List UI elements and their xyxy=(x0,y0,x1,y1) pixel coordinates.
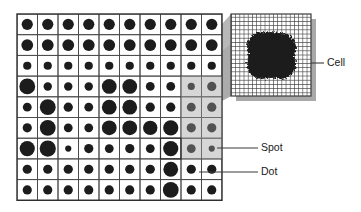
halftone-dot xyxy=(124,19,135,30)
halftone-dot xyxy=(185,39,197,51)
halftone-dot xyxy=(23,165,32,174)
halftone-dot xyxy=(43,165,52,174)
halftone-dot xyxy=(143,121,157,135)
halftone-dot xyxy=(21,39,33,51)
halftone-dot xyxy=(23,123,32,132)
halftone-dot xyxy=(105,185,114,194)
halftone-dot xyxy=(187,185,196,194)
diagram-canvas: CellSpotDot xyxy=(0,0,361,212)
halftone-dot xyxy=(84,165,93,174)
halftone-dot xyxy=(23,62,31,70)
halftone-dot xyxy=(146,144,155,153)
halftone-dot xyxy=(85,62,93,70)
halftone-dot xyxy=(207,185,216,194)
halftone-dot xyxy=(104,19,115,30)
halftone-dot xyxy=(20,141,35,156)
halftone-dot xyxy=(64,123,73,132)
halftone-dot xyxy=(42,19,53,30)
halftone-dot xyxy=(44,62,52,70)
halftone-dot xyxy=(84,144,93,153)
halftone-dot xyxy=(22,19,33,30)
halftone-dot xyxy=(206,19,217,30)
halftone-dot xyxy=(146,82,155,91)
halftone-dot xyxy=(102,79,117,94)
halftone-dot xyxy=(165,19,176,30)
halftone-dot xyxy=(19,79,35,95)
halftone-dot xyxy=(206,39,218,51)
halftone-dot xyxy=(105,165,114,174)
label-spot: Spot xyxy=(261,141,283,153)
halftone-dot xyxy=(40,99,56,115)
halftone-dot xyxy=(124,39,136,51)
halftone-dot xyxy=(146,62,154,70)
magnified-dot-blob xyxy=(247,32,296,79)
halftone-dot xyxy=(187,165,196,174)
halftone-dot xyxy=(208,62,216,70)
halftone-diagram: CellSpotDot xyxy=(0,0,361,212)
label-cell: Cell xyxy=(327,56,345,68)
sampled-region-shade xyxy=(181,76,222,159)
halftone-dot xyxy=(105,62,113,70)
halftone-dot xyxy=(126,62,134,70)
halftone-dot xyxy=(40,140,56,156)
halftone-dot xyxy=(64,103,73,112)
halftone-dot xyxy=(102,100,117,115)
halftone-dot xyxy=(40,120,56,136)
halftone-dot xyxy=(186,19,197,30)
halftone-dot xyxy=(167,62,175,70)
halftone-dot xyxy=(64,185,73,194)
halftone-dot xyxy=(84,103,93,112)
label-dot: Dot xyxy=(261,165,277,177)
halftone-dot xyxy=(64,62,72,70)
halftone-dot xyxy=(122,120,137,135)
halftone-dot xyxy=(144,39,156,51)
halftone-dot xyxy=(165,39,177,51)
halftone-dot xyxy=(146,165,155,174)
halftone-dot xyxy=(83,39,95,51)
halftone-dot xyxy=(43,185,52,194)
halftone-dot xyxy=(122,79,137,94)
halftone-dot xyxy=(146,185,155,194)
halftone-dot xyxy=(163,141,178,156)
halftone-dot xyxy=(84,185,93,194)
magnified-spot-view xyxy=(231,14,316,101)
halftone-dot xyxy=(42,39,54,51)
halftone-dot xyxy=(84,123,93,132)
halftone-dot xyxy=(163,120,178,135)
halftone-dot xyxy=(23,185,32,194)
halftone-dot xyxy=(166,103,175,112)
halftone-dot xyxy=(163,162,178,177)
halftone-dot xyxy=(44,82,52,90)
halftone-dot xyxy=(103,39,115,51)
halftone-dot xyxy=(146,103,155,112)
halftone-dot xyxy=(23,103,32,112)
halftone-dot xyxy=(166,82,175,91)
halftone-dot xyxy=(105,144,114,153)
halftone-dot xyxy=(163,182,179,198)
halftone-dot xyxy=(122,100,137,115)
halftone-dot xyxy=(64,165,73,174)
magnifier-cell-matrix xyxy=(231,14,311,96)
halftone-dot xyxy=(65,145,71,151)
halftone-dot xyxy=(125,185,134,194)
halftone-dot xyxy=(102,120,117,135)
halftone-dot xyxy=(125,165,134,174)
halftone-dot xyxy=(145,19,156,30)
halftone-dot xyxy=(63,19,74,30)
halftone-dot xyxy=(85,82,93,90)
halftone-dot xyxy=(187,62,195,70)
halftone-dot xyxy=(64,82,72,90)
halftone-dot xyxy=(62,39,74,51)
halftone-dot xyxy=(83,19,94,30)
halftone-dot xyxy=(125,144,134,153)
